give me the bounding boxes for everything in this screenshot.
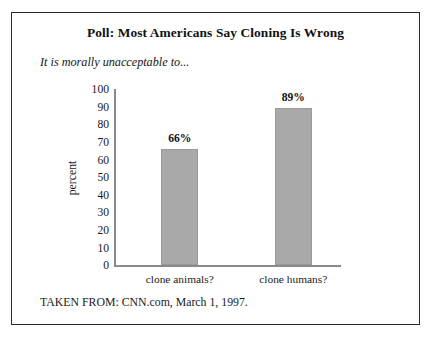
page-title: Poll: Most Americans Say Cloning Is Wron… [12, 25, 419, 41]
y-axis-tick-10: 10 [79, 241, 109, 254]
y-axis-tick-40: 40 [79, 188, 109, 201]
y-axis-line [114, 89, 116, 267]
x-axis-line [114, 265, 341, 267]
bar-rect [275, 108, 312, 265]
y-axis-tick-30: 30 [79, 206, 109, 219]
bar-value-label: 66% [168, 132, 191, 145]
x-axis-category-label: clone humans? [259, 273, 327, 285]
y-axis-tick-60: 60 [79, 153, 109, 166]
y-axis-tick-90: 90 [79, 100, 109, 113]
y-axis-tick-70: 70 [79, 135, 109, 148]
x-axis-category-label: clone animals? [146, 273, 214, 285]
chart-subtitle: It is morally unacceptable to... [40, 55, 189, 70]
y-axis-tick-20: 20 [79, 224, 109, 237]
bar-rect [161, 149, 198, 265]
y-axis-title: percent [65, 161, 80, 196]
bar-group: 66%clone animals? [161, 149, 198, 265]
source-note: TAKEN FROM: CNN.com, March 1, 1997. [40, 295, 248, 310]
figure-page: Poll: Most Americans Say Cloning Is Wron… [0, 0, 433, 339]
bar-group: 89%clone humans? [275, 108, 312, 265]
y-axis-tick-100: 100 [79, 83, 109, 96]
figure-frame: Poll: Most Americans Say Cloning Is Wron… [11, 12, 420, 325]
y-axis-tick-50: 50 [79, 171, 109, 184]
y-axis-tick-80: 80 [79, 118, 109, 131]
bar-value-label: 89% [282, 91, 305, 104]
y-axis-tick-0: 0 [79, 259, 109, 272]
plot-area: percent 1009080706050403020100 66%clone … [114, 89, 341, 267]
